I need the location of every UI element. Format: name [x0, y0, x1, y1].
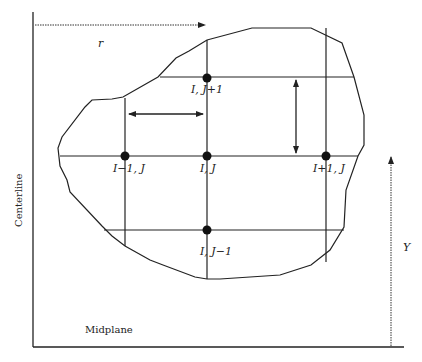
y-label: Y [403, 242, 410, 253]
grid-diagram [0, 0, 422, 362]
node-label-bottom: I, J−1 [200, 246, 232, 257]
r-label: r [98, 38, 103, 49]
node-label-left: I−1, J [113, 163, 145, 174]
node-left [121, 152, 130, 161]
node-right [322, 152, 331, 161]
node-bottom [203, 226, 212, 235]
midplane-label: Midplane [85, 325, 133, 335]
diagram-canvas: r I, J+1 I−1, J I, J I+1, J I, J−1 Y Mid… [0, 0, 422, 362]
node-label-center: I, J [200, 163, 216, 174]
node-top [203, 74, 212, 83]
node-label-right: I+1, J [313, 163, 345, 174]
domain-boundary [58, 28, 364, 279]
node-center [203, 152, 212, 161]
centerline-label: Centerline [14, 174, 24, 227]
node-label-top: I, J+1 [191, 84, 223, 95]
